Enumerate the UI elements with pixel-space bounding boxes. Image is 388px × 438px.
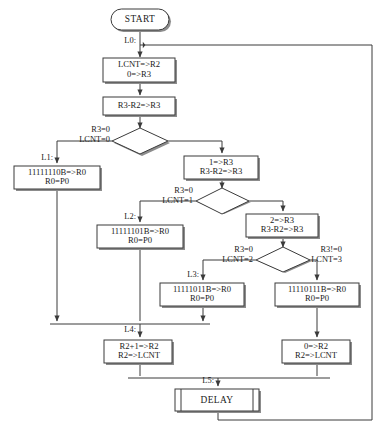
delay-label: DELAY <box>201 395 234 405</box>
edge-label-dec3-a: R3!=0 <box>321 245 342 254</box>
dec0-shape <box>112 128 168 154</box>
edge-label-dec3-b: LCNT=3 <box>311 255 342 264</box>
set2-line2: R3-R2=>R3 <box>261 224 304 234</box>
node-reset[interactable]: 0=>R2 R2=>LCNT <box>282 340 352 365</box>
node-p4[interactable]: 11110111B=>R0 R0=P0 <box>275 283 361 308</box>
label-l5: L5: <box>202 376 214 385</box>
node-inc[interactable]: R2+1=>R2 R2=>LCNT <box>104 340 174 365</box>
p3-line2: R0=P0 <box>190 293 214 303</box>
label-l4: L4: <box>124 325 136 334</box>
edge-label-dec1-a: R3=0 <box>174 186 193 195</box>
p2-line2: R0=P0 <box>128 235 152 245</box>
node-dec0[interactable] <box>112 128 170 156</box>
label-l2: L2: <box>124 212 136 221</box>
dec2-shape <box>256 247 310 272</box>
reset-line1: 0=>R2 <box>304 341 328 351</box>
set2-line1: 2=>R3 <box>270 215 294 225</box>
p3-line1: 11111011B=>R0 <box>173 284 231 294</box>
start-label: START <box>125 14 155 24</box>
node-set1[interactable]: 1=>R3 R3-R2=>R3 <box>184 156 260 181</box>
edge-label-dec2-b: LCNT=2 <box>222 255 253 264</box>
node-set2[interactable]: 2=>R3 R3-R2=>R3 <box>246 214 320 239</box>
edge-label-dec0-a: R3=0 <box>91 125 110 134</box>
node-p3[interactable]: 11111011B=>R0 R0=P0 <box>160 283 246 308</box>
label-l3: L3: <box>187 270 199 279</box>
flowchart-svg: START L0: LCNT=>R2 0=>R3 R3-R2=>R3 R3=0 … <box>0 0 388 438</box>
set1-line2: R3-R2=>R3 <box>200 166 243 176</box>
p1-line1: 11111110B=>R0 <box>28 167 86 177</box>
edge-dec1-true-to-set2 <box>249 201 283 211</box>
sub0-line1: R3-R2=>R3 <box>118 100 161 110</box>
dec1-shape <box>196 188 249 214</box>
label-l0: L0: <box>124 36 136 45</box>
node-delay[interactable]: DELAY <box>175 389 261 413</box>
inc-line2: R2=>LCNT <box>118 350 161 360</box>
p4-line2: R0=P0 <box>305 293 329 303</box>
node-init[interactable]: LCNT=>R2 0=>R3 <box>103 58 177 84</box>
p4-line1: 11110111B=>R0 <box>288 284 346 294</box>
edge-label-dec0-b: LCNT=0 <box>79 135 110 144</box>
flowchart-canvas: START L0: LCNT=>R2 0=>R3 R3-R2=>R3 R3=0 … <box>0 0 388 438</box>
set1-line1: 1=>R3 <box>209 157 233 167</box>
edge-dec0-true-to-set1 <box>168 141 222 153</box>
edge-label-dec2-a: R3=0 <box>234 245 253 254</box>
label-l1: L1: <box>41 153 53 162</box>
edge-dec0-false-to-p1 <box>57 141 112 163</box>
node-p2[interactable]: 11111101B=>R0 R0=P0 <box>97 225 185 250</box>
p1-line2: R0=P0 <box>45 176 69 186</box>
node-start[interactable]: START <box>111 9 171 32</box>
inc-line1: R2+1=>R2 <box>120 341 159 351</box>
node-dec2[interactable] <box>256 247 312 273</box>
init-line1: LCNT=>R2 <box>118 59 160 69</box>
edge-label-dec1-b: LCNT=1 <box>162 196 193 205</box>
reset-line2: R2=>LCNT <box>295 350 338 360</box>
arrowhead-loop-into-l0 <box>143 42 146 48</box>
p2-line1: 11111101B=>R0 <box>111 226 169 236</box>
node-sub0[interactable]: R3-R2=>R3 <box>103 97 177 117</box>
init-line2: 0=>R3 <box>127 69 151 79</box>
node-p1[interactable]: 11111110B=>R0 R0=P0 <box>14 166 102 191</box>
node-dec1[interactable] <box>196 188 251 214</box>
